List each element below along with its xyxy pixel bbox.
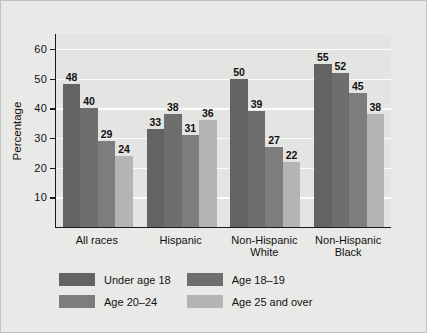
legend-swatch (187, 273, 223, 286)
bar-value-label: 29 (101, 128, 113, 140)
bar[interactable]: 39 (248, 34, 266, 227)
bar[interactable]: 22 (283, 34, 301, 227)
x-axis-category-label-line: Non-Hispanic (223, 234, 307, 246)
legend-label: Age 25 and over (232, 296, 313, 308)
bar[interactable]: 48 (63, 34, 81, 227)
bar-value-label: 36 (202, 107, 214, 119)
bar-value-label: 24 (118, 143, 130, 155)
bar-value-label: 48 (66, 71, 78, 83)
chart-legend: Under age 18Age 18–19Age 20–24Age 25 and… (59, 273, 312, 308)
bar[interactable]: 55 (314, 34, 332, 227)
y-axis-tick-label: 50 (34, 73, 47, 85)
legend-swatch (59, 273, 95, 286)
y-axis-tick-label: 30 (34, 132, 47, 144)
legend-item[interactable]: Age 20–24 (59, 295, 171, 308)
bar-value-label: 55 (317, 51, 329, 63)
x-axis-category-label-line: Hispanic (139, 234, 223, 246)
bar[interactable]: 38 (164, 34, 182, 227)
y-axis-tick-mark (50, 138, 56, 140)
y-axis-title-text: Percentage (11, 101, 23, 160)
legend-label: Age 20–24 (104, 296, 157, 308)
bar[interactable]: 36 (199, 34, 217, 227)
bar[interactable]: 50 (230, 34, 248, 227)
bar-rect (265, 147, 283, 227)
legend-item[interactable]: Under age 18 (59, 273, 171, 286)
x-axis-category-label: Non-HispanicWhite (223, 234, 307, 258)
plot-area: 1020304050604840292433383136503927225552… (55, 34, 391, 228)
bar[interactable]: 31 (182, 34, 200, 227)
y-axis-tick-label: 40 (34, 102, 47, 114)
bar-value-label: 39 (251, 98, 263, 110)
bar-value-label: 38 (167, 101, 179, 113)
bar-value-label: 40 (83, 95, 95, 107)
bar-group: 33383136 (147, 34, 217, 227)
x-axis-category-label-line: Black (306, 246, 390, 258)
bar-rect (349, 93, 367, 227)
bar[interactable]: 45 (349, 34, 367, 227)
bar-value-label: 52 (335, 60, 347, 72)
bar[interactable]: 27 (265, 34, 283, 227)
legend-item[interactable]: Age 25 and over (187, 295, 313, 308)
y-axis-tick-label: 10 (34, 191, 47, 203)
x-axis-category-label: All races (55, 234, 139, 246)
bar[interactable]: 29 (98, 34, 116, 227)
bar[interactable]: 38 (367, 34, 385, 227)
bar[interactable]: 40 (80, 34, 98, 227)
legend-label: Age 18–19 (232, 274, 285, 286)
bar-value-label: 45 (352, 80, 364, 92)
bar-value-label: 27 (268, 134, 280, 146)
y-axis-tick-mark (50, 79, 56, 81)
y-axis-tick-mark (50, 197, 56, 199)
bar-rect (332, 73, 350, 227)
y-axis-tick-mark (50, 168, 56, 170)
bar-rect (314, 64, 332, 227)
x-axis-category-label: Hispanic (139, 234, 223, 246)
y-axis-tick-label: 20 (34, 162, 47, 174)
bar[interactable]: 33 (147, 34, 165, 227)
bar-rect (182, 135, 200, 227)
bar-rect (367, 114, 385, 227)
bar-group: 48402924 (63, 34, 133, 227)
x-axis-category-label: Non-HispanicBlack (306, 234, 390, 258)
y-axis-title: Percentage (9, 34, 25, 227)
bar-rect (199, 120, 217, 227)
legend-item[interactable]: Age 18–19 (187, 273, 313, 286)
bar-value-label: 22 (286, 149, 298, 161)
x-axis-category-label-line: Non-Hispanic (306, 234, 390, 246)
bar[interactable]: 52 (332, 34, 350, 227)
y-axis-tick-mark (50, 108, 56, 110)
bar-value-label: 38 (370, 101, 382, 113)
bar-value-label: 33 (150, 116, 162, 128)
y-axis-tick-label: 60 (34, 43, 47, 55)
chart-figure: Percentage 10203040506048402924333831365… (0, 0, 427, 333)
bar-rect (147, 129, 165, 227)
bar-rect (115, 156, 133, 227)
bar-value-label: 31 (185, 122, 197, 134)
legend-swatch (187, 295, 223, 308)
bar-group: 55524538 (314, 34, 384, 227)
y-axis-tick-mark (50, 49, 56, 51)
bar-value-label: 50 (233, 66, 245, 78)
legend-label: Under age 18 (104, 274, 171, 286)
bar-group: 50392722 (230, 34, 300, 227)
bar-rect (248, 111, 266, 227)
x-axis-category-label-line: White (223, 246, 307, 258)
bar-rect (164, 114, 182, 227)
bar-rect (80, 108, 98, 227)
x-axis-category-label-line: All races (55, 234, 139, 246)
bar-rect (230, 79, 248, 227)
bar-rect (63, 84, 81, 227)
bar-rect (98, 141, 116, 227)
legend-swatch (59, 295, 95, 308)
bar-rect (283, 162, 301, 227)
bar[interactable]: 24 (115, 34, 133, 227)
